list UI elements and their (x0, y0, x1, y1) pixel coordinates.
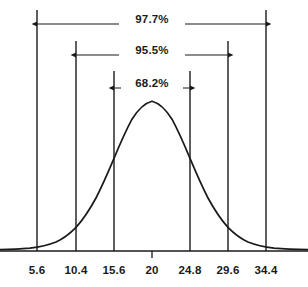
span-label-95: 95.5% (135, 44, 169, 56)
tick-label-5-6: 5.6 (29, 264, 46, 276)
tick-label-29-6: 29.6 (216, 264, 239, 276)
tick-label-10-4: 10.4 (64, 264, 88, 276)
normal-distribution-figure: 97.7% 95.5% 68.2% 5.6 10.4 15.6 20 24.8 … (0, 0, 308, 287)
distribution-chart-svg: 97.7% 95.5% 68.2% 5.6 10.4 15.6 20 24.8 … (0, 0, 308, 287)
span-label-97: 97.7% (135, 13, 169, 25)
tick-label-34-4: 34.4 (254, 264, 278, 276)
span-label-68: 68.2% (135, 77, 169, 89)
tick-label-15-6: 15.6 (102, 264, 125, 276)
tick-label-20: 20 (145, 264, 158, 276)
tick-label-24-8: 24.8 (178, 264, 202, 276)
span-labels: 97.7% 95.5% 68.2% (119, 12, 185, 90)
